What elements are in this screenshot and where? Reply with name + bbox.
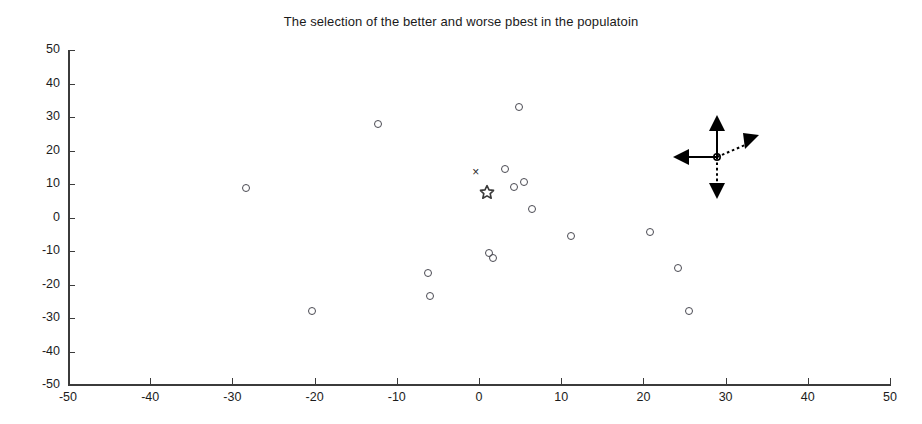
x-tick-label: 10: [537, 390, 585, 404]
x-tick-label: -20: [291, 390, 339, 404]
x-tick-label: 0: [455, 390, 503, 404]
y-tick-label: -50: [16, 377, 60, 391]
data-point-circle: [501, 165, 509, 173]
data-point-circle: [510, 183, 518, 191]
x-tick-label: -10: [373, 390, 421, 404]
data-point-circle: [528, 205, 536, 213]
y-tick: [68, 251, 75, 252]
x-tick-label: 20: [619, 390, 667, 404]
y-tick-label: 30: [16, 109, 60, 123]
x-tick: [315, 378, 316, 385]
y-tick-label: -10: [16, 243, 60, 257]
x-tick: [150, 378, 151, 385]
four-way-arrow-icon: [669, 109, 765, 205]
data-point-circle: [685, 307, 693, 315]
y-tick: [68, 151, 75, 152]
plot-axes-area: 50403020100-10-20-30-40-50 -50-40-30-20-…: [68, 50, 890, 385]
data-point-circle: [489, 254, 497, 262]
y-tick-label: -40: [16, 344, 60, 358]
data-point-circle: [426, 292, 434, 300]
data-point-circle: [424, 269, 432, 277]
y-tick-label: -30: [16, 310, 60, 324]
x-tick-label: -40: [126, 390, 174, 404]
x-tick: [808, 378, 809, 385]
x-tick: [479, 378, 480, 385]
x-tick-label: 30: [702, 390, 750, 404]
x-tick-label: -50: [44, 390, 92, 404]
x-tick: [68, 378, 69, 385]
data-point-circle: [567, 232, 575, 240]
y-tick: [68, 50, 75, 51]
x-tick: [397, 378, 398, 385]
chart-title: The selection of the better and worse pb…: [0, 14, 922, 29]
data-point-circle: [520, 178, 528, 186]
y-tick-label: 50: [16, 42, 60, 56]
data-point-circle: [674, 264, 682, 272]
y-tick-label: 10: [16, 176, 60, 190]
x-tick: [643, 378, 644, 385]
y-tick-label: 20: [16, 143, 60, 157]
y-tick-label: 40: [16, 76, 60, 90]
x-tick: [232, 378, 233, 385]
y-tick: [68, 218, 75, 219]
x-tick: [561, 378, 562, 385]
y-tick: [68, 352, 75, 353]
y-tick: [68, 285, 75, 286]
x-tick-label: -30: [208, 390, 256, 404]
data-point-circle: [308, 307, 316, 315]
y-tick-label: 0: [16, 210, 60, 224]
chart-figure: The selection of the better and worse pb…: [0, 0, 922, 424]
y-tick: [68, 84, 75, 85]
data-point-circle: [374, 120, 382, 128]
data-point-circle: [515, 103, 523, 111]
x-tick-label: 50: [866, 390, 914, 404]
data-point-better-pbest: [480, 185, 495, 200]
y-tick: [68, 117, 75, 118]
data-point-circle: [242, 184, 250, 192]
y-tick-label: -20: [16, 277, 60, 291]
x-tick: [890, 378, 891, 385]
data-point-circle: [646, 228, 654, 236]
y-tick: [68, 318, 75, 319]
x-tick-label: 40: [784, 390, 832, 404]
y-tick: [68, 385, 75, 386]
y-tick: [68, 184, 75, 185]
data-point-worse-pbest: ×: [472, 166, 479, 178]
x-tick: [726, 378, 727, 385]
